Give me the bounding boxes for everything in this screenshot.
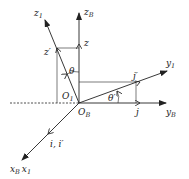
angle-arc-theta-prime: [117, 91, 119, 103]
label-zB: zB: [83, 7, 94, 19]
label-z: z: [83, 38, 89, 48]
axis-xB: [22, 103, 79, 160]
unit-vector-j-prime: [125, 82, 140, 88]
label-O1: O1: [62, 91, 74, 103]
axis-y1: [79, 71, 167, 103]
label-theta: θ: [69, 66, 75, 76]
label-j: j: [134, 107, 139, 117]
label-j-prime: j′: [131, 71, 138, 81]
label-i-i-prime: i, i′: [50, 139, 64, 149]
label-xB-x1: xBx1: [10, 164, 31, 176]
label-z-prime: z′: [43, 47, 51, 57]
label-z1: z1: [33, 8, 43, 20]
frame-diagram: z1 zB z z′ θ y1 j′ θ′ O1 OB j yB i, i′ x…: [0, 0, 189, 179]
label-y1: y1: [165, 58, 175, 70]
label-theta-prime: θ′: [108, 93, 115, 103]
label-yB: yB: [165, 107, 176, 119]
label-OB: OB: [78, 107, 90, 119]
